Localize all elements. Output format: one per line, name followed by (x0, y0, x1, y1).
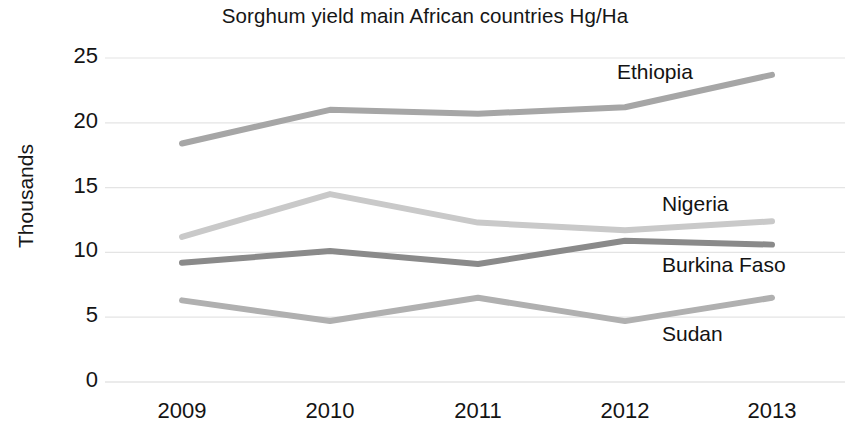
series-label-sudan: Sudan (662, 322, 723, 346)
series-line-ethiopia (182, 75, 772, 144)
series-label-burkina-faso: Burkina Faso (662, 253, 786, 277)
series-label-nigeria: Nigeria (662, 192, 729, 216)
plot-area (0, 0, 850, 445)
line-chart: Sorghum yield main African countries Hg/… (0, 0, 850, 445)
series-label-ethiopia: Ethiopia (617, 60, 693, 84)
